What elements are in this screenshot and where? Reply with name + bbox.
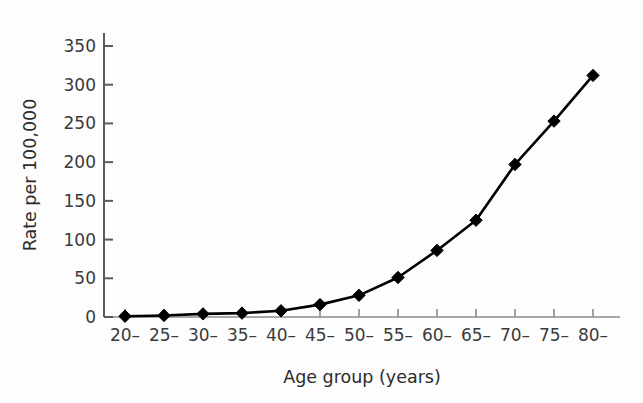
x-axis-title: Age group (years) (283, 367, 441, 387)
x-tick-label: 70– (500, 325, 530, 345)
y-tick-label: 0 (85, 307, 96, 327)
line-chart-plot: 050100150200250300350 20–25–30–35–40–45–… (0, 0, 643, 403)
x-tick-label: 65– (461, 325, 491, 345)
x-tick-label: 40– (266, 325, 296, 345)
x-tick-label: 75– (539, 325, 569, 345)
y-axis-title: Rate per 100,000 (20, 99, 40, 252)
y-tick-label: 250 (64, 113, 96, 133)
x-tick-label: 60– (422, 325, 452, 345)
y-tick-label: 200 (64, 152, 96, 172)
y-tick-label: 350 (64, 36, 96, 56)
x-tick-label: 35– (227, 325, 257, 345)
y-tick-label: 50 (74, 268, 96, 288)
x-tick-label: 55– (383, 325, 413, 345)
chart-figure: 050100150200250300350 20–25–30–35–40–45–… (0, 0, 643, 403)
x-tick-label: 50– (344, 325, 374, 345)
x-tick-label: 80– (578, 325, 608, 345)
y-tick-label: 100 (64, 230, 96, 250)
y-tick-label: 150 (64, 191, 96, 211)
x-tick-label: 20– (110, 325, 140, 345)
x-tick-label: 30– (188, 325, 218, 345)
x-tick-label: 45– (305, 325, 335, 345)
x-tick-label: 25– (149, 325, 179, 345)
y-tick-label: 300 (64, 75, 96, 95)
